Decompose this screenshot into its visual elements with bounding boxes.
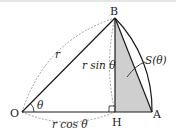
label-rcos: r cos θ	[52, 118, 88, 130]
label-A: A	[152, 108, 162, 121]
label-O: O	[10, 107, 19, 120]
label-S-theta: S(θ)	[145, 54, 167, 66]
angle-arc	[31, 104, 35, 113]
label-rsin: r sin θ	[82, 59, 116, 71]
label-H: H	[112, 116, 122, 129]
label-r: r	[55, 48, 61, 60]
label-B: B	[110, 5, 118, 18]
geometry-diagram: B O H A r θ r sin θ r cos θ S(θ)	[0, 0, 179, 137]
label-theta: θ	[37, 99, 44, 111]
